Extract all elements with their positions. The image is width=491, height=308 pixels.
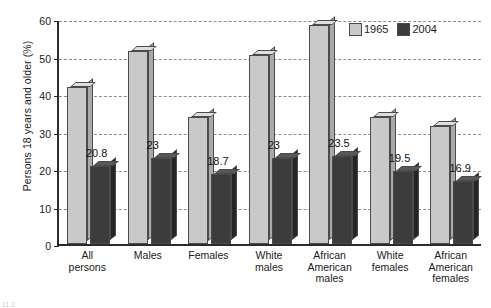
legend-label-1965: 1965 bbox=[364, 24, 388, 35]
bar-side bbox=[110, 157, 116, 240]
bar-face bbox=[211, 174, 231, 244]
bar-group: 20.8 bbox=[59, 21, 120, 244]
bar-face bbox=[453, 181, 473, 244]
bar-chart: Persons 18 years and older (%) 010203040… bbox=[0, 0, 491, 308]
x-tick-label-line: White bbox=[360, 250, 421, 262]
bar-face bbox=[90, 166, 110, 244]
bar-2004[interactable] bbox=[90, 166, 110, 244]
bar-1965[interactable] bbox=[249, 55, 269, 244]
value-label: 20.8 bbox=[86, 148, 107, 159]
bar-side bbox=[231, 165, 237, 240]
bar-group: 19.5 bbox=[362, 21, 423, 244]
x-tick-label-line: males bbox=[239, 262, 300, 274]
bar-side bbox=[352, 147, 358, 240]
x-tick-label: Females bbox=[178, 250, 239, 262]
bar-1965[interactable] bbox=[188, 117, 208, 245]
bar-face bbox=[272, 158, 292, 244]
x-tick-label-line: persons bbox=[57, 262, 118, 274]
value-label: 18.7 bbox=[207, 156, 228, 167]
x-tick-label-line: All bbox=[57, 250, 118, 262]
x-tick-label: Allpersons bbox=[57, 250, 118, 273]
bar-1965[interactable] bbox=[67, 87, 87, 245]
y-tick-label-60: 60 bbox=[25, 16, 51, 26]
bar-face bbox=[332, 156, 352, 244]
x-tick-label-line: females bbox=[420, 273, 481, 285]
legend-swatch-1965 bbox=[349, 23, 362, 36]
x-tick-label: Males bbox=[118, 250, 179, 262]
bar-face bbox=[249, 55, 269, 244]
bar-side bbox=[171, 149, 177, 240]
bar-2004[interactable] bbox=[332, 156, 352, 244]
bar-face bbox=[188, 117, 208, 245]
plot-area: 20.82318.72323.519.516.9 bbox=[57, 21, 481, 246]
bar-group: 16.9 bbox=[422, 21, 483, 244]
y-tick-label-30: 30 bbox=[25, 129, 51, 139]
value-label: 19.5 bbox=[389, 153, 410, 164]
bar-group: 18.7 bbox=[180, 21, 241, 244]
bar-2004[interactable] bbox=[211, 174, 231, 244]
y-tick-label-10: 10 bbox=[25, 204, 51, 214]
y-tick-label-0: 0 bbox=[25, 241, 51, 251]
x-tick-label: Whitefemales bbox=[360, 250, 421, 273]
x-tick-label-line: African bbox=[299, 250, 360, 262]
bar-side bbox=[413, 162, 419, 240]
x-tick-label-line: African bbox=[420, 250, 481, 262]
y-tick-label-50: 50 bbox=[25, 54, 51, 64]
value-label: 23 bbox=[268, 140, 280, 151]
value-label: 23.5 bbox=[328, 138, 349, 149]
x-axis-tick-labels: AllpersonsMalesFemalesWhitemalesAfricanA… bbox=[57, 250, 481, 296]
bar-1965[interactable] bbox=[370, 117, 390, 245]
bar-side bbox=[473, 172, 479, 240]
y-tick-mark-0 bbox=[54, 246, 59, 247]
bar-face bbox=[67, 87, 87, 245]
y-axis-tick-labels: 0102030405060 bbox=[21, 21, 51, 246]
bar-group: 23.5 bbox=[301, 21, 362, 244]
bar-face bbox=[430, 126, 450, 244]
bar-1965[interactable] bbox=[430, 126, 450, 244]
x-tick-label: AfricanAmericanmales bbox=[299, 250, 360, 285]
bar-2004[interactable] bbox=[393, 171, 413, 244]
bar-group: 23 bbox=[241, 21, 302, 244]
bar-1965[interactable] bbox=[128, 51, 148, 244]
x-tick-label-line: females bbox=[360, 262, 421, 274]
x-tick-label-line: Females bbox=[178, 250, 239, 262]
legend: 1965 2004 bbox=[349, 23, 437, 36]
value-label: 16.9 bbox=[449, 163, 470, 174]
x-tick-label-line: Males bbox=[118, 250, 179, 262]
legend-item-1965[interactable]: 1965 bbox=[349, 23, 388, 36]
x-tick-label: Whitemales bbox=[239, 250, 300, 273]
bar-1965[interactable] bbox=[309, 25, 329, 244]
legend-label-2004: 2004 bbox=[412, 24, 436, 35]
y-tick-label-20: 20 bbox=[25, 166, 51, 176]
bar-face bbox=[370, 117, 390, 245]
bar-face bbox=[309, 25, 329, 244]
value-label: 23 bbox=[147, 140, 159, 151]
legend-swatch-2004 bbox=[397, 23, 410, 36]
bar-face bbox=[393, 171, 413, 244]
y-tick-label-40: 40 bbox=[25, 91, 51, 101]
bar-2004[interactable] bbox=[453, 181, 473, 244]
figure-caption: 11.2 bbox=[2, 301, 15, 308]
bar-face bbox=[128, 51, 148, 244]
bar-group: 23 bbox=[120, 21, 181, 244]
x-tick-label-line: males bbox=[299, 273, 360, 285]
bar-face bbox=[151, 158, 171, 244]
bar-2004[interactable] bbox=[151, 158, 171, 244]
x-tick-label-line: White bbox=[239, 250, 300, 262]
bar-2004[interactable] bbox=[272, 158, 292, 244]
x-tick-label: AfricanAmericanfemales bbox=[420, 250, 481, 285]
legend-item-2004[interactable]: 2004 bbox=[397, 23, 436, 36]
bar-side bbox=[292, 149, 298, 240]
